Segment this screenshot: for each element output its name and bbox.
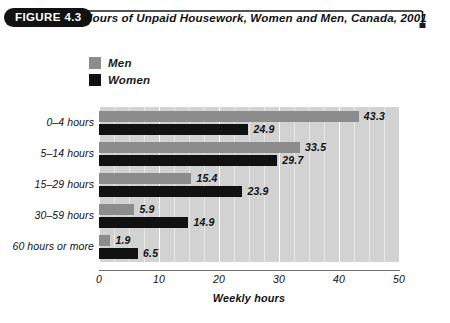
- bar-value-label: 15.4: [196, 172, 217, 184]
- bar-men-4: [99, 235, 110, 246]
- y-axis-label-4: 60 hours or more: [12, 240, 94, 252]
- bar-group: 1.96.5: [99, 235, 399, 259]
- bar-value-label: 29.7: [282, 154, 303, 166]
- y-axis-label-2: 15–29 hours: [35, 178, 94, 190]
- bar-group: 15.423.9: [99, 173, 399, 197]
- bar-group: 33.529.7: [99, 142, 399, 166]
- bar-chart: 0–4 hours5–14 hours15–29 hours30–59 hour…: [0, 0, 450, 323]
- x-tick-40: 40: [333, 273, 345, 285]
- bar-value-label: 23.9: [247, 185, 268, 197]
- x-tick-0: 0: [96, 273, 102, 285]
- bar-value-label: 43.3: [364, 110, 385, 122]
- bar-men-3: [99, 204, 134, 215]
- y-axis-label-0: 0–4 hours: [46, 116, 94, 128]
- y-axis-label-3: 30–59 hours: [35, 209, 94, 221]
- bar-women-4: [99, 248, 138, 259]
- x-tick-50: 50: [393, 273, 405, 285]
- y-axis-label-1: 5–14 hours: [40, 147, 94, 159]
- bar-value-label: 33.5: [305, 141, 326, 153]
- bar-women-0: [99, 124, 248, 135]
- bar-women-3: [99, 217, 188, 228]
- x-axis-line: [99, 270, 400, 271]
- bar-men-2: [99, 173, 191, 184]
- bar-value-label: 5.9: [139, 203, 154, 215]
- bar-value-label: 6.5: [143, 247, 158, 259]
- x-tick-10: 10: [153, 273, 165, 285]
- page-footer-cutoff: [140, 315, 446, 321]
- bar-group: 5.914.9: [99, 204, 399, 228]
- bar-value-label: 24.9: [253, 123, 274, 135]
- bar-value-label: 14.9: [193, 216, 214, 228]
- bar-women-2: [99, 186, 242, 197]
- x-tick-20: 20: [213, 273, 225, 285]
- plot-area: 43.324.933.529.715.423.95.914.91.96.5: [99, 107, 399, 262]
- gridline-major: [399, 107, 400, 262]
- bar-men-0: [99, 111, 359, 122]
- x-axis-title: Weekly hours: [99, 292, 399, 304]
- bar-value-label: 1.9: [115, 234, 130, 246]
- x-axis-tick-labels: 01020304050: [99, 273, 399, 289]
- y-axis-category-labels: 0–4 hours5–14 hours15–29 hours30–59 hour…: [0, 107, 94, 262]
- bar-women-1: [99, 155, 277, 166]
- bar-men-1: [99, 142, 300, 153]
- x-tick-30: 30: [273, 273, 285, 285]
- bar-group: 43.324.9: [99, 111, 399, 135]
